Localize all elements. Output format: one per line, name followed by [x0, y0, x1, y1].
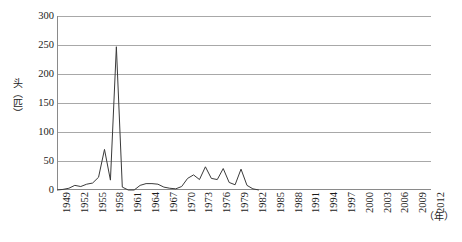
y-axis-tick-labels: 050100150200250300 [26, 0, 54, 242]
x-tick-label: 1961 [132, 192, 143, 213]
y-tick-label: 200 [26, 69, 54, 79]
x-tick-label: 1964 [150, 192, 161, 213]
y-tick-label: 50 [26, 156, 54, 166]
series-polyline [57, 47, 259, 190]
series-line-chart [57, 16, 431, 190]
x-tick-label: 2009 [417, 192, 428, 213]
x-tick-label: 1967 [168, 192, 179, 213]
x-tick-label: 1949 [61, 192, 72, 213]
x-tick-label: 1994 [328, 192, 339, 213]
x-tick-label: 2000 [364, 192, 375, 213]
x-tick-label: 1973 [203, 192, 214, 213]
x-tick-label: 1988 [293, 192, 304, 213]
y-tick-label: 150 [26, 98, 54, 108]
x-tick-label: 2006 [399, 192, 410, 213]
x-axis-tick-labels: 1949195219551958196119641967197019731976… [57, 190, 462, 242]
x-tick-label: 1982 [257, 192, 268, 213]
chart-container: 头（匹） 050100150200250300 1949195219551958… [0, 0, 462, 242]
y-axis-title: 头（匹） [4, 78, 22, 118]
y-tick-label: 0 [26, 185, 54, 195]
x-tick-label: 1952 [79, 192, 90, 213]
x-tick-label: 1997 [346, 192, 357, 213]
x-tick-label: 2003 [382, 192, 393, 213]
y-tick-label: 100 [26, 127, 54, 137]
x-tick-label: 1970 [186, 192, 197, 213]
y-tick-label: 300 [26, 11, 54, 21]
x-tick-label: 1979 [239, 192, 250, 213]
x-tick-label: 1991 [310, 192, 321, 213]
x-axis-unit-label: （年） [424, 211, 454, 222]
x-tick-label: 2012 [435, 192, 446, 213]
y-tick-label: 250 [26, 40, 54, 50]
x-tick-label: 1955 [97, 192, 108, 213]
x-tick-label: 1976 [221, 192, 232, 213]
x-tick-label: 1958 [114, 192, 125, 213]
plot-area [57, 16, 431, 190]
x-tick-label: 1985 [275, 192, 286, 213]
